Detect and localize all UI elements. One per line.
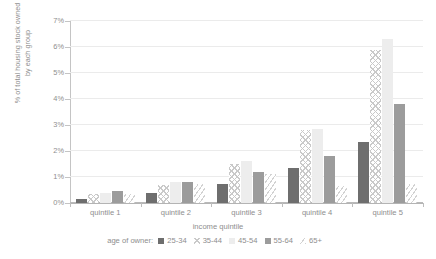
legend-item-35-44[interactable]: 35-44	[194, 236, 222, 245]
bar-55-64-quintile-2[interactable]	[182, 182, 193, 203]
bar-25-34-quintile-2[interactable]	[146, 193, 157, 203]
y-tick-label-4: 4%	[38, 94, 64, 103]
bar-45-54-quintile-4[interactable]	[312, 129, 323, 203]
bar-65plus-quintile-3[interactable]	[265, 174, 276, 203]
bar-group-bars	[141, 21, 212, 203]
bar-45-54-quintile-1[interactable]	[100, 193, 111, 203]
bar-group-bars	[70, 21, 141, 203]
y-tick-mark-4	[65, 99, 70, 100]
bar-25-34-quintile-5[interactable]	[358, 142, 369, 203]
plot-area	[70, 21, 423, 203]
y-tick-label-2: 2%	[38, 146, 64, 155]
x-category-label: quintile 2	[141, 208, 212, 217]
bar-45-54-quintile-2[interactable]	[170, 182, 181, 203]
y-tick-label-0: 0%	[38, 198, 64, 207]
x-tick-mark	[70, 203, 71, 207]
bar-45-54-quintile-5[interactable]	[382, 39, 393, 203]
bar-55-64-quintile-1[interactable]	[112, 191, 123, 203]
x-category-label: quintile 5	[352, 208, 423, 217]
y-tick-label-7: 7%	[38, 16, 64, 25]
bar-65plus-quintile-5[interactable]	[406, 184, 417, 204]
bar-55-64-quintile-5[interactable]	[394, 104, 405, 203]
solid-mid-square-icon	[265, 238, 271, 244]
bar-group-bars	[211, 21, 282, 203]
bar-group-bars	[352, 21, 423, 203]
y-tick-mark-7	[65, 21, 70, 22]
solid-light-square-icon	[229, 238, 235, 244]
y-tick-mark-6	[65, 47, 70, 48]
legend-item-45-54[interactable]: 45-54	[229, 236, 257, 245]
bar-35-44-quintile-4[interactable]	[300, 130, 311, 203]
x-tick-mark	[352, 203, 353, 207]
bar-35-44-quintile-1[interactable]	[88, 194, 99, 203]
legend-title: age of owner:	[107, 236, 153, 245]
x-tick-mark	[211, 203, 212, 207]
y-axis-title-line-2: by each group	[23, 0, 33, 141]
legend-item-label: 55-64	[274, 236, 293, 245]
x-category-label: quintile 1	[70, 208, 141, 217]
x-axis-line	[70, 203, 424, 204]
x-axis-title: income quintile	[0, 222, 436, 231]
bar-65plus-quintile-1[interactable]	[124, 194, 135, 203]
x-category-label: quintile 4	[282, 208, 353, 217]
bar-chart: % of total housing stock owned by each g…	[0, 0, 436, 259]
y-tick-mark-2	[65, 151, 70, 152]
y-tick-label-6: 6%	[38, 42, 64, 51]
x-tick-mark	[282, 203, 283, 207]
y-tick-mark-1	[65, 177, 70, 178]
bar-group	[141, 21, 212, 203]
bar-55-64-quintile-3[interactable]	[253, 172, 264, 203]
legend-item-label: 45-54	[238, 236, 257, 245]
bar-group	[70, 21, 141, 203]
y-tick-label-1: 1%	[38, 172, 64, 181]
x-tick-mark	[141, 203, 142, 207]
chart-legend: age of owner: 25-3435-4445-5455-6465+	[0, 236, 436, 245]
y-tick-label-3: 3%	[38, 120, 64, 129]
legend-item-label: 25-34	[167, 236, 186, 245]
legend-item-65plus[interactable]: 65+	[300, 236, 322, 245]
x-tick-mark	[423, 203, 424, 207]
bar-25-34-quintile-1[interactable]	[76, 199, 87, 203]
y-tick-label-5: 5%	[38, 68, 64, 77]
y-tick-mark-5	[65, 73, 70, 74]
bar-45-54-quintile-3[interactable]	[241, 161, 252, 203]
bar-group	[282, 21, 353, 203]
x-category-label: quintile 3	[211, 208, 282, 217]
bar-group	[352, 21, 423, 203]
bar-35-44-quintile-5[interactable]	[370, 50, 381, 203]
bar-55-64-quintile-4[interactable]	[324, 156, 335, 203]
bar-65plus-quintile-4[interactable]	[336, 186, 347, 203]
y-axis-title-line-1: % of total housing stock owned	[13, 0, 23, 141]
bar-group	[211, 21, 282, 203]
bar-group-bars	[282, 21, 353, 203]
legend-item-label: 35-44	[203, 236, 222, 245]
bar-25-34-quintile-3[interactable]	[217, 184, 228, 204]
bar-35-44-quintile-2[interactable]	[158, 185, 169, 203]
y-tick-mark-3	[65, 125, 70, 126]
legend-item-label: 65+	[309, 236, 322, 245]
bar-groups	[70, 21, 423, 203]
y-axis-title: % of total housing stock owned by each g…	[13, 0, 35, 141]
legend-item-55-64[interactable]: 55-64	[265, 236, 293, 245]
crosshatch-square-icon	[194, 238, 200, 244]
legend-item-25-34[interactable]: 25-34	[158, 236, 186, 245]
bar-25-34-quintile-4[interactable]	[288, 168, 299, 203]
bar-65plus-quintile-2[interactable]	[194, 184, 205, 204]
diagonal-hatch-square-icon	[300, 238, 306, 244]
solid-dark-square-icon	[158, 238, 164, 244]
bar-35-44-quintile-3[interactable]	[229, 164, 240, 203]
